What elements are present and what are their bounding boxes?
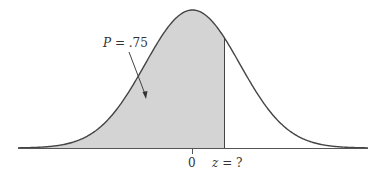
probability-label: P = .75 — [103, 36, 148, 50]
z-label: z = ? — [212, 156, 242, 170]
normal-distribution-chart: P = .75 0 z = ? — [0, 0, 381, 179]
shaded-area — [18, 10, 225, 148]
tick-label-zero: 0 — [188, 156, 196, 170]
chart-plot — [0, 0, 381, 179]
